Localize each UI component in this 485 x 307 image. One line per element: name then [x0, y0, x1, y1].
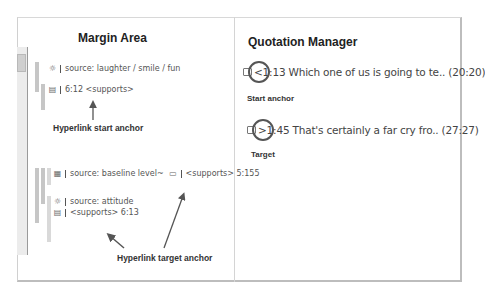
arrow-icon	[110, 236, 124, 248]
arrow-icon	[164, 196, 183, 248]
